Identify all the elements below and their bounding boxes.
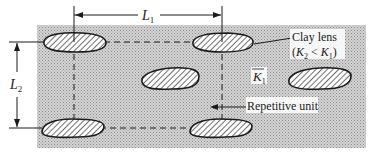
repetitive-unit-label: Repetitive unit [247,99,319,113]
l2-label: L2 [9,77,22,94]
clay-lens-top-left [44,33,106,52]
l1-dimension: L1 [74,8,221,25]
clay-lens-bottom-left [42,119,104,137]
clay-lens-diagram: L1 L2 Clay lens (K2 < K1) K1 Repetitive … [0,0,380,154]
l1-label: L1 [141,8,154,25]
clay-lens-label: Clay lens [292,30,337,44]
clay-lens-top-right [193,33,253,52]
matrix-k1-label: K1 [251,67,267,86]
clay-lens-bottom-right [190,119,252,137]
l2-dimension: L2 [9,43,22,127]
